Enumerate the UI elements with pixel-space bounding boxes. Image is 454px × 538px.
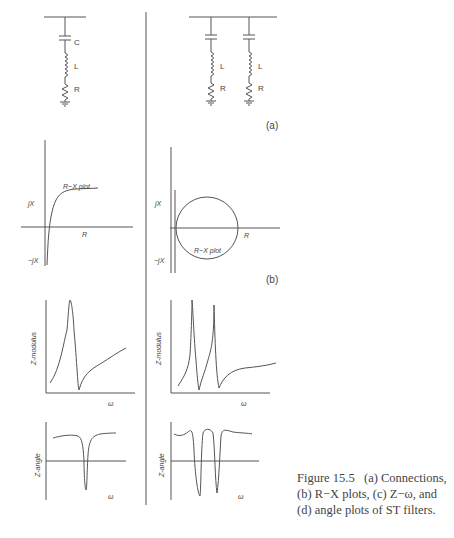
jx-label-right: jX bbox=[154, 200, 162, 208]
caption-line3: (d) angle plots of ST filters. bbox=[297, 503, 436, 517]
rx-plot-left bbox=[21, 140, 133, 266]
rx-plot-right bbox=[170, 147, 280, 273]
z-modulus-ylabel-right: Z-modulus bbox=[155, 331, 162, 366]
figure-caption: Figure 15.5 (a) Connections, (b) R−X plo… bbox=[297, 470, 454, 518]
omega-label-angle-left: ω bbox=[108, 493, 114, 500]
z-angle-right bbox=[171, 422, 259, 500]
inductor-label: L bbox=[74, 62, 79, 71]
panel-label-a: (a) bbox=[266, 120, 278, 131]
z-angle-left bbox=[46, 422, 126, 500]
neg-jx-label-left: −jX bbox=[28, 257, 39, 265]
rx-curve-label-left: R−X plot bbox=[63, 183, 91, 191]
r-label-right: R bbox=[244, 232, 249, 239]
double-tuned-circuit bbox=[189, 17, 277, 105]
inductor-label-2: L bbox=[258, 62, 263, 71]
z-modulus-ylabel-left: Z-modulus bbox=[30, 331, 37, 366]
inductor-label-1: L bbox=[220, 62, 225, 71]
panel-label-b: (b) bbox=[266, 274, 278, 285]
omega-label-mod-left: ω bbox=[108, 400, 114, 407]
resistor-label-2: R bbox=[258, 84, 264, 93]
resistor-label: R bbox=[74, 85, 80, 94]
omega-label-mod-right: ω bbox=[241, 400, 247, 407]
r-label-left: R bbox=[82, 231, 87, 238]
omega-label-angle-right: ω bbox=[238, 493, 244, 500]
jx-label-left: jX bbox=[27, 200, 35, 208]
neg-jx-label-right: −jX bbox=[154, 257, 165, 265]
z-angle-ylabel-right: Z-angle bbox=[158, 453, 166, 478]
inductor-icon bbox=[65, 53, 68, 77]
resistor-label-1: R bbox=[220, 84, 226, 93]
caption-line1: (a) Connections, bbox=[364, 471, 447, 485]
rx-curve-label-right: R−X plot bbox=[194, 247, 222, 255]
capacitor-label: C bbox=[74, 38, 80, 47]
z-modulus-left bbox=[46, 300, 135, 393]
figure-canvas: C L R L R L R (a) (b) R−X plot jX −jX R … bbox=[0, 0, 454, 538]
z-modulus-right bbox=[171, 300, 276, 393]
resistor-icon bbox=[62, 84, 68, 100]
z-angle-ylabel-left: Z-angle bbox=[34, 453, 42, 478]
caption-number: Figure 15.5 bbox=[297, 471, 355, 485]
caption-line2: (b) R−X plots, (c) Z−ω, and bbox=[297, 487, 437, 501]
